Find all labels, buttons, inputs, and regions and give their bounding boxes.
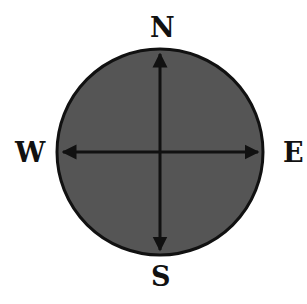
compass-diagram: N W E S (0, 0, 307, 304)
compass-graphic (0, 0, 307, 304)
east-label: E (283, 139, 304, 166)
south-label: S (151, 263, 171, 290)
north-label: N (150, 14, 175, 41)
west-label: W (15, 139, 45, 166)
